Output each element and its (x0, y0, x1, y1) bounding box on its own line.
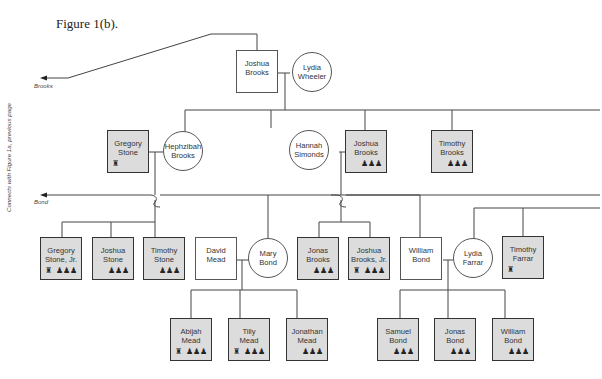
node-name-line1: Lydia (303, 63, 321, 72)
node-name-line1: Hannah (296, 141, 323, 150)
node-name-line2: Mead (207, 255, 226, 264)
node-name-line1: Timothy (510, 245, 537, 254)
side-label: Connects with Figure 1a, previous page (5, 88, 12, 228)
node-name-line2: Stone (103, 255, 123, 264)
node-william-bond[interactable]: William Bond ♟♟♟ (492, 318, 534, 361)
node-name-line1: Timothy (151, 246, 178, 255)
node-hannah-simonds[interactable]: Hannah Simonds (289, 130, 329, 170)
node-name-line2: Brooks (171, 151, 195, 160)
family-icon: ♟♟♟ (56, 267, 77, 275)
family-icon: ♟♟♟ (244, 348, 265, 356)
node-name-line2: Mead (182, 336, 201, 345)
node-name-line2: Brooks (306, 255, 330, 264)
family-icon: ♟♟♟ (447, 160, 468, 168)
node-name-line2: Bond (259, 258, 277, 267)
node-name-line1: Joshua (245, 59, 270, 68)
node-lydia-wheeler[interactable]: Lydia Wheeler (292, 52, 332, 92)
node-name-line1: William (501, 327, 525, 336)
node-name-line1: Tilly (242, 327, 255, 336)
node-name-line2: Stone (118, 148, 138, 157)
soldier-icon: ♜ (507, 266, 514, 274)
node-name-line1: Gregory (47, 246, 74, 255)
node-name-line1: William (409, 246, 433, 255)
node-hephzibah-brooks[interactable]: Hephzibah Brooks (163, 131, 203, 171)
node-name-line2: Bond (412, 255, 430, 264)
node-timothy-stone[interactable]: Timothy Stone ♟♟♟ (143, 237, 185, 280)
node-name-line1: Jonas (445, 327, 465, 336)
family-icon: ♟♟♟ (364, 267, 385, 275)
node-name-line1: Lydia (464, 249, 482, 258)
soldier-icon: ♜ (353, 267, 360, 275)
node-name-line2: Stone, Jr. (45, 255, 77, 264)
family-icon: ♟♟♟ (108, 267, 129, 275)
soldier-icon: ♜ (175, 348, 182, 356)
node-abijah-mead[interactable]: Abijah Mead ♜♟♟♟ (170, 318, 212, 361)
node-joshua-brooks-jr[interactable]: Joshua Brooks, Jr. ♜♟♟♟ (348, 237, 390, 280)
node-name-line1: Joshua (354, 139, 379, 148)
node-name-line2: Brooks (354, 148, 378, 157)
family-icon: ♟♟♟ (159, 267, 180, 275)
node-joshua-brooks-sr[interactable]: Joshua Brooks (236, 50, 278, 93)
node-jonas-brooks[interactable]: Jonas Brooks ♟♟♟ (297, 237, 339, 280)
brooks-arrow-label: Brooks (34, 83, 53, 89)
node-william-bond-sr[interactable]: William Bond (400, 237, 442, 280)
node-name-line2: Simonds (294, 150, 324, 159)
node-mary-bond[interactable]: Mary Bond (248, 238, 288, 278)
bond-arrow-label: Bond (34, 199, 48, 205)
node-name-line2: Mead (298, 336, 317, 345)
node-name-line2: Bond (389, 336, 407, 345)
node-lydia-farrar[interactable]: Lydia Farrar (453, 238, 493, 278)
node-name-line1: Mary (260, 249, 277, 258)
node-name-line1: Jonathan (291, 327, 322, 336)
node-name-line1: Joshua (357, 246, 382, 255)
node-timothy-brooks[interactable]: Timothy Brooks ♟♟♟ (431, 130, 473, 173)
node-david-mead[interactable]: David Mead (195, 237, 237, 280)
family-icon: ♟♟♟ (313, 267, 334, 275)
node-name-line1: Jonas (308, 246, 328, 255)
family-icon: ♟♟♟ (450, 348, 471, 356)
node-name-line2: Mead (240, 336, 259, 345)
family-icon: ♟♟♟ (508, 348, 529, 356)
node-name-line1: Samuel (385, 327, 411, 336)
node-name-line2: Farrar (513, 254, 534, 263)
node-name-line2: Bond (504, 336, 522, 345)
soldier-icon: ♜ (233, 348, 240, 356)
node-jonas-bond[interactable]: Jonas Bond ♟♟♟ (434, 318, 476, 361)
family-icon: ♟♟♟ (186, 348, 207, 356)
figure-title: Figure 1(b). (56, 16, 118, 32)
node-name-line2: Brooks (440, 148, 464, 157)
node-gregory-stone-jr[interactable]: Gregory Stone, Jr. ♜♟♟♟ (40, 237, 82, 280)
soldier-icon: ♜ (112, 160, 119, 168)
node-name-line2: Brooks, Jr. (351, 255, 387, 264)
family-icon: ♟♟♟ (302, 348, 323, 356)
node-name-line2: Bond (446, 336, 464, 345)
family-tree-diagram: Figure 1(b). Connects with Figure 1a, pr… (0, 0, 602, 379)
soldier-icon: ♜ (45, 267, 52, 275)
node-tilly-mead[interactable]: Tilly Mead ♜♟♟♟ (228, 318, 270, 361)
node-name-line1: Hephzibah (165, 142, 201, 151)
family-icon: ♟♟♟ (393, 348, 414, 356)
node-name-line1: Timothy (439, 139, 466, 148)
node-name-line2: Brooks (245, 68, 269, 77)
node-name-line2: Stone (154, 255, 174, 264)
node-name-line2: Wheeler (298, 72, 326, 81)
node-name-line1: Joshua (101, 246, 126, 255)
node-timothy-farrar[interactable]: Timothy Farrar ♜ (502, 236, 544, 279)
family-icon: ♟♟♟ (361, 160, 382, 168)
node-gregory-stone[interactable]: Gregory Stone ♜ (107, 130, 149, 173)
node-joshua-brooks[interactable]: Joshua Brooks ♟♟♟ (345, 130, 387, 173)
node-samuel-bond[interactable]: Samuel Bond ♟♟♟ (377, 318, 419, 361)
node-name-line1: Gregory (114, 139, 141, 148)
node-name-line2: Farrar (463, 258, 484, 267)
node-name-line1: David (206, 246, 225, 255)
node-joshua-stone[interactable]: Joshua Stone ♟♟♟ (92, 237, 134, 280)
node-name-line1: Abijah (180, 327, 201, 336)
node-jonathan-mead[interactable]: Jonathan Mead ♟♟♟ (286, 318, 328, 361)
